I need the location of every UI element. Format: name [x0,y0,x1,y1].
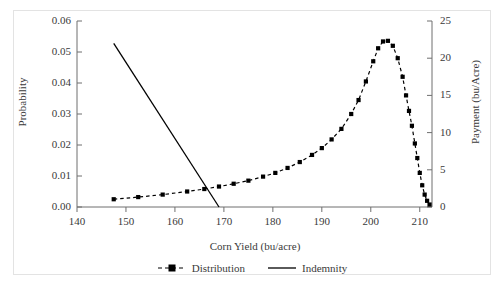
chart-figure: Probability Payment (bu/Acre) Corn Yield… [0,0,504,287]
legend-item-indemnity: Indemnity [267,262,347,274]
y-axis-right-tick-3: 15 [440,88,480,100]
dashed-square-marker-icon [157,263,187,273]
y-axis-left-tick-4: 0.04 [25,76,71,88]
y-axis-right-title: Payment (bu/Acre) [469,47,481,157]
y-axis-right-tick-4: 20 [440,51,480,63]
y-axis-left-title: Probability [16,52,28,152]
x-axis-tick-4: 180 [253,215,293,227]
y-axis-right-tick-5: 25 [440,14,480,26]
y-axis-left-tick-2: 0.02 [25,138,71,150]
y-axis-right-tick-1: 5 [440,163,480,175]
x-axis-tick-1: 150 [106,215,146,227]
y-axis-left-tick-0: 0.00 [25,200,71,212]
y-axis-left-tick-1: 0.01 [25,169,71,181]
series-layer [112,39,432,207]
x-axis-tick-3: 170 [204,215,244,227]
y-axis-right-tick-2: 10 [440,126,480,138]
x-axis-tick-5: 190 [302,215,342,227]
y-axis-left-tick-5: 0.05 [25,45,71,57]
x-axis-tick-2: 160 [155,215,195,227]
legend-item-distribution: Distribution [157,262,245,274]
series-distribution [112,39,432,207]
y-axis-left-tick-6: 0.06 [25,14,71,26]
y-axis-right-tick-0: 0 [440,200,480,212]
y-axis-left-tick-3: 0.03 [25,107,71,119]
legend-label-distribution: Distribution [192,262,245,274]
x-axis-title: Corn Yield (bu/acre) [160,240,350,252]
chart-legend: Distribution Indemnity [0,262,504,274]
x-axis-tick-6: 200 [351,215,391,227]
x-axis-tick-0: 140 [57,215,97,227]
series-indemnity [114,43,219,207]
x-axis-tick-7: 210 [400,215,440,227]
legend-label-indemnity: Indemnity [302,262,347,274]
solid-line-icon [267,263,297,273]
